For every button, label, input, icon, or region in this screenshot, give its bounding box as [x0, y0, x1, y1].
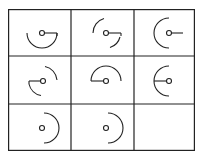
- arc-top-right-icon: [45, 67, 57, 81]
- center-dot-icon: [104, 31, 109, 36]
- cell-r1c0-figure: [29, 67, 57, 96]
- arc-icon: [108, 113, 123, 143]
- puzzle-grid: [8, 9, 195, 151]
- cell-r0c0-figure: [27, 31, 57, 49]
- arc-top-left-icon: [93, 19, 104, 34]
- center-dot-icon: [41, 79, 46, 84]
- center-dot-icon: [104, 126, 109, 131]
- center-dot-icon: [40, 31, 45, 36]
- arc-icon: [44, 113, 59, 143]
- cell-r0c2-figure: [154, 18, 183, 48]
- center-dot-icon: [167, 79, 172, 84]
- center-dot-icon: [167, 31, 172, 36]
- arc-bottom-right-icon: [110, 37, 120, 48]
- cell-r2c0-figure: [40, 113, 59, 143]
- cell-r1c1-figure: [91, 66, 121, 84]
- cell-r2c1-figure: [104, 113, 123, 143]
- arc-bottom-left-icon: [29, 84, 41, 96]
- center-dot-icon: [40, 126, 45, 131]
- puzzle-grid-svg: [8, 9, 195, 151]
- cell-r1c2-figure: [154, 66, 172, 96]
- cell-r0c1-figure: [93, 19, 121, 48]
- center-dot-icon: [104, 79, 109, 84]
